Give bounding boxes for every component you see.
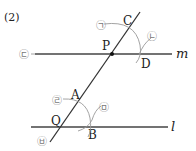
angle-marker-c: ㉢ — [19, 49, 29, 60]
line-m-label: m — [176, 46, 188, 61]
parallel-lines-diagram: (2) m l P C D A Q B ㉠ ㉡ ㉢ — [0, 0, 196, 151]
line-l-label: l — [171, 119, 175, 134]
point-p-label: P — [102, 39, 110, 53]
angle-marker-e: ㉤ — [99, 102, 109, 113]
angle-marker-b: ㉡ — [147, 31, 157, 42]
point-c-label: C — [123, 14, 132, 28]
diagram-canvas: (2) m l P C D A Q B ㉠ ㉡ ㉢ — [0, 0, 196, 151]
angle-marker-f: ㉥ — [37, 136, 47, 147]
point-q-label: Q — [51, 114, 61, 128]
point-d-label: D — [141, 57, 151, 71]
point-p-dot — [110, 52, 114, 56]
problem-number: (2) — [4, 11, 20, 24]
angle-marker-d: ㉣ — [52, 95, 62, 106]
angle-marker-a: ㉠ — [96, 20, 106, 31]
transversal-line — [50, 12, 140, 142]
